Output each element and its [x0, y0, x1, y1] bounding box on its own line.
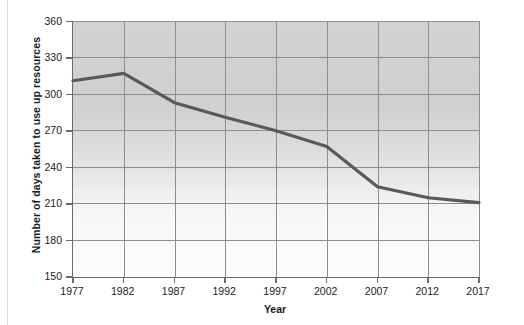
y-tick-label-270: 270 [22, 125, 62, 136]
page-footer-text [14, 318, 234, 325]
y-tick-label-150: 150 [22, 271, 62, 282]
y-tick-label-240: 240 [22, 162, 62, 173]
y-tick-label-360: 360 [22, 16, 62, 27]
data-series-line [73, 73, 479, 202]
x-tick-label-2002: 2002 [301, 286, 351, 297]
x-tick-label-2012: 2012 [402, 286, 452, 297]
plot-area [72, 21, 479, 278]
x-tick-label-1987: 1987 [149, 286, 199, 297]
data-series-svg [73, 21, 479, 277]
y-tick-label-180: 180 [22, 235, 62, 246]
x-tick-label-1997: 1997 [250, 286, 300, 297]
y-tick-label-210: 210 [22, 198, 62, 209]
x-tick-label-1977: 1977 [47, 286, 97, 297]
x-tick-label-2017: 2017 [453, 286, 503, 297]
line-chart-figure: Number of days taken to use up resources… [0, 0, 524, 325]
x-tick-label-1982: 1982 [98, 286, 148, 297]
page-canvas: Number of days taken to use up resources… [0, 0, 524, 325]
y-tick-label-330: 330 [22, 52, 62, 63]
x-tick-label-1992: 1992 [199, 286, 249, 297]
x-axis-title: Year [72, 303, 478, 315]
y-tick-label-300: 300 [22, 89, 62, 100]
x-tick-label-2007: 2007 [352, 286, 402, 297]
